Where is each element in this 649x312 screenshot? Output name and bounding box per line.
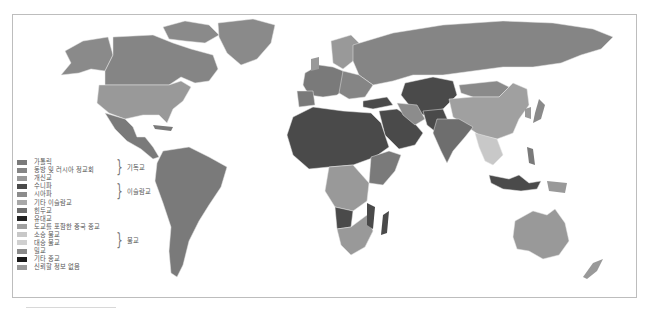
legend-label: 유대교 [34,215,52,223]
legend-swatch [17,184,27,189]
legend-item: 동방 및 러시아 정교회 [17,166,197,174]
legend-label: 기타 종교 [34,255,60,263]
legend-label: 소승 불교 [34,231,60,239]
legend-swatch [17,176,27,181]
legend-swatch [17,200,27,205]
region-india [433,119,473,163]
legend-item: 시아파 [17,190,197,198]
region-uk [311,57,319,71]
brace-icon: } [116,159,122,176]
legend-item: 기타 종교 [17,255,197,263]
legend-group-label: 이슬람교 [127,187,151,196]
region-alaska [61,37,113,75]
region-angola [335,207,353,229]
legend-group-christianity: } 기독교 [114,159,145,176]
legend-swatch [17,224,27,229]
region-caribbean [153,125,173,131]
legend-swatch [17,257,27,262]
region-east-africa [369,151,401,185]
legend-group-buddhism: } 불교 [114,232,139,249]
legend-item: 밀교 [17,247,197,255]
region-iberia [297,91,315,107]
legend-swatch [17,232,27,237]
caption-partial [26,304,116,310]
legend-item: 기타 이슬람교 [17,198,197,206]
legend-label: 기타 이슬람교 [34,199,72,207]
region-indonesia [489,175,541,191]
legend-label: 가톨릭 [34,158,52,166]
region-new-zealand [583,259,603,279]
region-turkey [363,97,393,109]
legend-label: 시아파 [34,190,52,198]
region-japan [533,99,545,123]
legend-swatch [17,265,27,270]
region-new-guinea [547,181,567,193]
legend-swatch [17,240,27,245]
legend-swatch [17,160,27,165]
legend-group-label: 기독교 [127,163,145,172]
legend-label: 도교를 포함한 중국 종교 [34,223,100,231]
legend-item: 도교를 포함한 중국 종교 [17,223,197,231]
region-australia [513,209,569,259]
legend-swatch [17,208,27,213]
legend-swatch [17,249,27,254]
region-mozambique [367,203,375,229]
legend-label: 힌두교 [34,207,52,215]
legend-label: 밀교 [34,247,46,255]
legend-label: 동방 및 러시아 정교회 [34,166,94,174]
region-philippines [527,147,535,165]
legend-item: 소승 불교 [17,231,197,239]
legend-group-islam: } 이슬람교 [114,183,151,200]
legend-item: 가톨릭 [17,158,197,166]
legend-swatch [17,192,27,197]
region-madagascar [381,211,389,235]
brace-icon: } [116,232,122,249]
region-korea [525,107,531,119]
legend-swatch [17,168,27,173]
legend-label: 신뢰할 정보 없음 [34,263,80,271]
legend-label: 대승 불교 [34,239,60,247]
legend-item: 대승 불교 [17,239,197,247]
legend-item: 힌두교 [17,207,197,215]
region-mexico [105,113,159,159]
region-greenland [218,19,275,65]
legend-group-label: 불교 [127,236,139,245]
region-canada-islands [163,21,219,43]
legend-item: 신뢰할 정보 없음 [17,263,197,271]
brace-icon: } [116,183,122,200]
legend-swatch [17,216,27,221]
legend-item: 유대교 [17,215,197,223]
region-central-africa [325,165,369,211]
legend: 가톨릭 동방 및 러시아 정교회 개신교 수니파 시아파 기타 이슬람교 힌두교… [17,158,197,271]
region-russia [353,21,613,85]
